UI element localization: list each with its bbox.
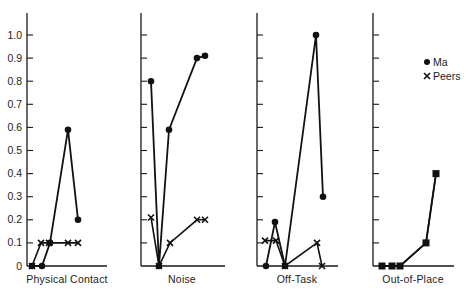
panel-out-of-place: Out-of-Place bbox=[373, 13, 454, 285]
ma-point bbox=[166, 126, 173, 133]
y-tick-label: 0.8 bbox=[7, 75, 22, 87]
behavior-comparison-chart: 00.10.20.30.40.50.60.70.80.91.0Physical … bbox=[0, 0, 469, 290]
ma-line bbox=[151, 56, 205, 266]
ma-point bbox=[313, 32, 320, 39]
y-tick-label: 1.0 bbox=[7, 29, 22, 41]
panel-label: Noise bbox=[168, 273, 196, 285]
y-tick-label: 0 bbox=[16, 260, 22, 272]
ma-point bbox=[148, 78, 155, 85]
ma-point bbox=[65, 126, 72, 133]
ma-point bbox=[47, 240, 54, 247]
overlap-point bbox=[423, 239, 430, 246]
ma-point bbox=[320, 193, 327, 200]
legend-peers-label: Peers bbox=[433, 70, 460, 82]
overlap-point bbox=[389, 263, 396, 270]
peers-line bbox=[32, 243, 78, 266]
overlap-point bbox=[379, 263, 386, 270]
ma-point bbox=[194, 55, 201, 62]
overlap-point bbox=[397, 263, 404, 270]
y-tick-label: 0.6 bbox=[7, 121, 22, 133]
panel-noise: Noise bbox=[141, 13, 225, 285]
peers-point bbox=[167, 240, 173, 246]
ma-point bbox=[282, 263, 289, 270]
ma-point bbox=[263, 263, 270, 270]
panel-label: Off-Task bbox=[277, 273, 318, 285]
y-tick-label: 0.7 bbox=[7, 98, 22, 110]
ma-line bbox=[266, 35, 323, 266]
ma-line bbox=[382, 174, 436, 266]
peers-line bbox=[265, 241, 322, 266]
ma-point bbox=[29, 263, 36, 270]
panel-label: Out-of-Place bbox=[382, 273, 443, 285]
y-tick-label: 0.2 bbox=[7, 213, 22, 225]
peers-line bbox=[382, 174, 436, 266]
legend-ma-marker bbox=[424, 59, 430, 65]
legend-peers-marker bbox=[424, 73, 430, 79]
overlap-point bbox=[433, 170, 440, 177]
y-tick-label: 0.5 bbox=[7, 144, 22, 156]
y-tick-label: 0.1 bbox=[7, 236, 22, 248]
legend: Ma Peers bbox=[424, 56, 460, 82]
panel-label: Physical Contact bbox=[26, 273, 107, 285]
y-tick-label: 0.4 bbox=[7, 167, 22, 179]
panel-physical-contact: 00.10.20.30.40.50.60.70.80.91.0Physical … bbox=[7, 13, 107, 285]
y-tick-label: 0.9 bbox=[7, 52, 22, 64]
panels: 00.10.20.30.40.50.60.70.80.91.0Physical … bbox=[7, 13, 454, 285]
ma-point bbox=[202, 52, 209, 59]
y-tick-label: 0.3 bbox=[7, 190, 22, 202]
panel-off-task: Off-Task bbox=[257, 13, 338, 285]
ma-point bbox=[156, 263, 163, 270]
ma-point bbox=[39, 263, 46, 270]
ma-point bbox=[75, 217, 82, 224]
ma-point bbox=[272, 219, 279, 226]
legend-ma-label: Ma bbox=[433, 56, 448, 68]
